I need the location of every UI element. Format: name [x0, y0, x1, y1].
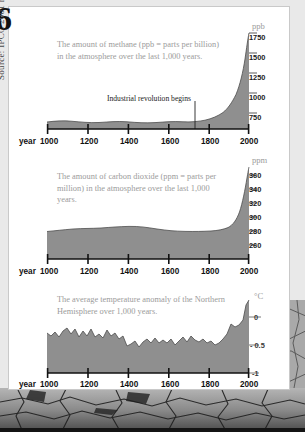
methane-ytick-1750: 1750	[249, 33, 265, 42]
temperature-xtick-1600: 1600	[161, 380, 179, 389]
temperature-xaxis-label: year	[19, 380, 36, 389]
temperature-xtick-1000: 1000	[40, 380, 58, 389]
methane-unit-label: ppb	[252, 21, 265, 31]
methane-ytick-1250: 1250	[249, 73, 265, 82]
industrial-revolution-annotation: Industrial revolution begins	[107, 94, 191, 103]
co2-xtick-1800: 1800	[201, 267, 219, 276]
co2-unit-label: ppm	[252, 155, 267, 165]
cracked-earth-photo	[0, 388, 305, 432]
methane-xtick-1400: 1400	[120, 137, 138, 146]
methane-xaxis-label: year	[19, 137, 36, 146]
co2-ytick-260: 260	[249, 241, 261, 250]
methane-xtick-2000: 2000	[240, 137, 258, 146]
co2-ytick-360: 360	[249, 171, 261, 180]
chart-panel-methane: The amount of methane (ppb = parts per b…	[9, 21, 289, 147]
temperature-ytick-minus-1: -1	[252, 369, 259, 378]
temperature-area-chart	[9, 287, 291, 391]
chart-panel-temperature-anomaly: The average temperature anomaly of the N…	[9, 287, 289, 391]
co2-ytick-280: 280	[249, 227, 261, 236]
co2-ytick-340: 340	[249, 185, 261, 194]
co2-ytick-300: 300	[249, 213, 261, 222]
methane-ytick-1500: 1500	[249, 53, 265, 62]
co2-ytick-320: 320	[249, 199, 261, 208]
temperature-xtick-1200: 1200	[80, 380, 98, 389]
temperature-xtick-1400: 1400	[120, 380, 138, 389]
co2-xtick-2000: 2000	[240, 267, 258, 276]
co2-xtick-1200: 1200	[80, 267, 98, 276]
temperature-xtick-1800: 1800	[201, 380, 219, 389]
temperature-xtick-2000: 2000	[240, 380, 258, 389]
methane-xtick-1600: 1600	[161, 137, 179, 146]
methane-xtick-1000: 1000	[40, 137, 58, 146]
poster-root: The amount of methane (ppb = parts per b…	[0, 0, 305, 432]
co2-xaxis-label: year	[19, 267, 36, 276]
co2-xtick-1600: 1600	[161, 267, 179, 276]
temperature-unit-label: °C	[254, 291, 263, 301]
source-credit: Source: IPCC 2001 report	[0, 0, 6, 80]
methane-ytick-750: 750	[249, 113, 261, 122]
page-card: The amount of methane (ppb = parts per b…	[8, 6, 290, 390]
methane-ytick-1000: 1000	[249, 93, 265, 102]
chart-panel-carbon-dioxide: The amount of carbon dioxide (ppm = part…	[9, 153, 289, 277]
co2-xtick-1000: 1000	[40, 267, 58, 276]
temperature-ytick-minus-0-5: - 0.5	[250, 341, 265, 350]
methane-xtick-1200: 1200	[80, 137, 98, 146]
co2-xtick-1400: 1400	[120, 267, 138, 276]
temperature-ytick-0: 0	[254, 313, 258, 322]
methane-xtick-1800: 1800	[201, 137, 219, 146]
